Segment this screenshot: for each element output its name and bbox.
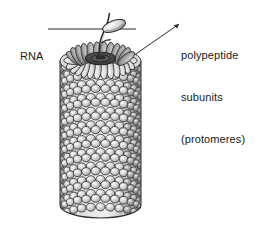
capsid-subunit-highlight — [128, 145, 131, 147]
capsid-subunit-highlight — [116, 123, 119, 125]
capsid-subunit-highlight — [128, 172, 131, 174]
capsid-subunit-highlight — [102, 114, 106, 116]
capsid-subunit-highlight — [121, 129, 124, 131]
capsid-subunit — [86, 203, 95, 211]
capsid-subunit-highlight — [134, 106, 137, 108]
capsid-subunit-highlight — [97, 108, 101, 110]
capsid-subunit-highlight — [128, 90, 131, 92]
capsid-subunit-highlight — [71, 152, 74, 154]
capsid-subunit-highlight — [83, 155, 87, 157]
capsid-subunit — [119, 155, 128, 163]
capsid-subunit-highlight — [107, 164, 111, 166]
capsid-subunit-highlight — [75, 88, 78, 90]
capsid-subunit-highlight — [93, 127, 97, 129]
capsid-subunit — [73, 169, 82, 177]
capsid-subunit-highlight — [65, 155, 68, 157]
label-polypeptide-subunits: polypeptide subunits (protomeres) — [181, 20, 245, 174]
capsid-subunit-highlight — [121, 116, 124, 118]
label-rna-text: RNA — [20, 49, 44, 63]
capsid-subunit — [91, 139, 100, 147]
capsid-subunit-highlight — [102, 100, 106, 102]
capsid-subunit-highlight — [63, 134, 66, 136]
capsid-subunit — [91, 194, 100, 202]
subunit-lattice — [57, 57, 143, 220]
capsid-subunit-highlight — [116, 151, 119, 153]
capsid-subunit-highlight — [134, 92, 137, 94]
capsid-subunit-highlight — [102, 196, 106, 198]
capsid-subunit-highlight — [79, 165, 82, 167]
capsid-subunit — [81, 167, 90, 175]
capsid-subunit-highlight — [83, 114, 87, 116]
subunits-leader-line — [133, 24, 179, 56]
capsid-subunit-highlight — [97, 95, 101, 97]
capsid-subunit — [101, 167, 110, 175]
capsid-subunit-highlight — [121, 102, 124, 104]
capsid-subunit-highlight — [83, 101, 87, 103]
capsid-subunit — [119, 114, 128, 122]
capsid-subunit-highlight — [71, 180, 74, 182]
capsid-subunit-highlight — [102, 155, 106, 157]
capsid-subunit — [91, 98, 100, 106]
capsid-subunit — [81, 99, 90, 107]
capsid-subunit-highlight — [125, 180, 128, 182]
capsid-subunit — [66, 170, 74, 178]
capsid-subunit-highlight — [63, 106, 66, 108]
capsid-subunit-highlight — [97, 122, 101, 124]
subunits-leader-arrowhead — [174, 24, 180, 29]
capsid-subunit-highlight — [107, 109, 111, 111]
capsid-subunit-highlight — [132, 141, 135, 143]
capsid-subunit — [66, 88, 74, 96]
capsid-subunit — [73, 196, 82, 204]
capsid-subunit-highlight — [71, 207, 74, 209]
capsid-subunit-highlight — [112, 142, 116, 144]
capsid-subunit — [73, 127, 82, 135]
capsid-subunit-highlight — [128, 200, 131, 202]
capsid-subunit — [91, 84, 100, 92]
capsid-subunit-highlight — [71, 98, 74, 100]
capsid-subunit-highlight — [97, 163, 101, 165]
capsid-subunit-highlight — [107, 191, 111, 193]
capsid-subunit-highlight — [134, 202, 137, 204]
capsid-subunit-highlight — [68, 172, 71, 174]
capsid-subunit-highlight — [68, 200, 71, 202]
capsid-subunit — [57, 213, 63, 220]
capsid-subunit-highlight — [68, 186, 71, 188]
capsid-subunit-highlight — [83, 128, 87, 130]
capsid-subunit-highlight — [121, 157, 124, 159]
capsid-subunit — [101, 139, 110, 147]
label-subunits-line3: (protomeres) — [181, 132, 245, 146]
capsid-subunit-highlight — [107, 122, 111, 124]
capsid-subunit-highlight — [125, 194, 128, 196]
capsid-subunit-highlight — [97, 191, 101, 193]
capsid-subunit — [66, 198, 74, 206]
detached-subunit — [101, 17, 127, 35]
capsid-subunit — [66, 74, 74, 82]
capsid-subunit-highlight — [132, 155, 135, 157]
capsid-subunit-highlight — [107, 81, 111, 83]
capsid-subunit — [77, 204, 86, 212]
capsid-subunit — [119, 86, 128, 94]
capsid-subunit — [138, 213, 144, 220]
capsid-subunit-highlight — [97, 177, 101, 179]
capsid-subunit — [119, 141, 128, 149]
capsid-subunit — [66, 129, 74, 137]
capsid-subunit-highlight — [134, 79, 137, 81]
capsid-subunit-highlight — [132, 113, 135, 115]
capsid-subunit-highlight — [88, 81, 92, 83]
capsid-subunit-highlight — [97, 136, 101, 138]
capsid-subunit-highlight — [128, 104, 131, 106]
capsid-subunit-highlight — [112, 114, 116, 116]
capsid-subunit-highlight — [79, 110, 82, 112]
capsid-subunit-highlight — [125, 207, 128, 209]
capsid-subunit-highlight — [97, 204, 101, 206]
capsid-subunit-highlight — [125, 111, 128, 113]
capsid-subunit-highlight — [65, 196, 68, 198]
capsid-subunit-highlight — [79, 137, 82, 139]
capsid-subunit-highlight — [93, 155, 97, 157]
capsid-subunit — [110, 140, 119, 148]
capsid-subunit — [73, 114, 82, 122]
capsid-subunit-highlight — [112, 87, 116, 89]
capsid-subunit-highlight — [71, 166, 74, 168]
capsid-subunit-highlight — [79, 96, 82, 98]
capsid-subunit — [101, 194, 110, 202]
